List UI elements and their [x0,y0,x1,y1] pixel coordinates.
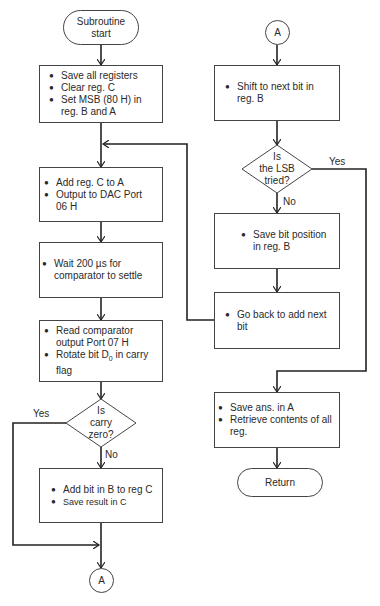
save-answer-box: Save ans. in A Retrieve contents of all … [214,392,340,448]
init-item-save: Save all registers [49,70,156,82]
lsb-no-label: No [283,196,296,207]
saveans-item-retrieve: Retrieve contents of all reg. [218,414,337,438]
init-item-set-msb: Set MSB (80 H) in reg. B and A [49,94,156,118]
wait-box: Wait 200 µs for comparator to settle [39,242,163,298]
add-output-box: Add reg. C to A Output to DAC Port 06 H [39,167,163,222]
saveans-item-save: Save ans. in A [218,402,337,414]
carry-decision-diamond: Is carry zero? [76,405,126,441]
start-label-line1: Subroutine [77,16,125,28]
read-item-rotate: Rotate bit D0 in carry flag [44,349,156,377]
return-terminal: Return [237,468,323,497]
addbit-item-add: Add bit in B to reg C [51,484,156,496]
carry-yes-label: Yes [33,408,49,419]
init-item-clear: Clear reg. C [49,82,156,94]
wait-item: Wait 200 µs for comparator to settle [42,258,160,282]
flowchart-canvas: Subroutine start Save all registers Clea… [0,0,380,606]
add-bit-box: Add bit in B to reg C Save result in C [39,468,163,523]
add-item-output-dac: Output to DAC Port 06 H [44,189,156,213]
go-back-box: Go back to add next bit [214,292,340,349]
shift-bit-box: Shift to next bit in reg. B [214,65,340,121]
add-item-add-c: Add reg. C to A [44,177,156,189]
lsb-decision-diamond: Is the LSB tried? [247,151,307,187]
save-bit-position-box: Save bit position in reg. B [214,213,340,269]
start-label-line2: start [91,28,110,40]
goback-item: Go back to add next bit [225,309,333,333]
connector-a-in: A [265,20,290,45]
init-registers-box: Save all registers Clear reg. C Set MSB … [39,65,163,123]
subroutine-start-terminal: Subroutine start [63,10,139,45]
connector-a-out: A [89,568,114,593]
read-comparator-box: Read comparator output Port 07 H Rotate … [39,320,163,382]
shift-item: Shift to next bit in reg. B [225,81,333,105]
savepos-item: Save bit position in reg. B [241,229,333,253]
carry-no-label: No [105,449,118,460]
read-item-comparator: Read comparator output Port 07 H [44,325,156,349]
addbit-item-save: Save result in C [51,496,156,508]
lsb-yes-label: Yes [329,156,345,167]
